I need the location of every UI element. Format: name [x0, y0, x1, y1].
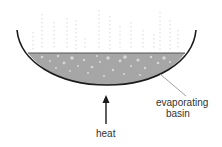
leader-line [160, 74, 186, 96]
heat-label: heat [96, 128, 115, 139]
basin-label-line2: basin [166, 108, 190, 119]
evaporation-diagram [0, 0, 222, 147]
vapour-lines [33, 10, 178, 50]
heat-arrow-icon [103, 95, 110, 124]
basin-label-line1: evaporating [156, 97, 208, 108]
